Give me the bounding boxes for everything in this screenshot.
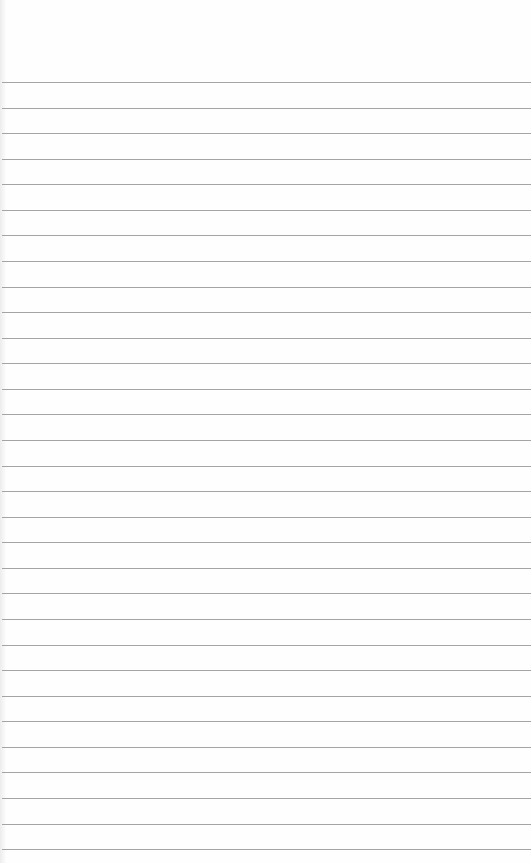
rule-line bbox=[2, 568, 531, 569]
rule-line bbox=[2, 235, 531, 236]
rule-line bbox=[2, 593, 531, 594]
rule-line bbox=[2, 824, 531, 825]
rule-line bbox=[2, 312, 531, 313]
rule-line bbox=[2, 542, 531, 543]
rule-line bbox=[2, 108, 531, 109]
rule-line bbox=[2, 261, 531, 262]
rule-line bbox=[2, 491, 531, 492]
rule-line bbox=[2, 670, 531, 671]
lined-paper bbox=[0, 0, 531, 863]
rule-line bbox=[2, 414, 531, 415]
rule-line bbox=[2, 338, 531, 339]
rule-line bbox=[2, 389, 531, 390]
rule-line bbox=[2, 440, 531, 441]
rule-line bbox=[2, 466, 531, 467]
rule-line bbox=[2, 772, 531, 773]
rule-line bbox=[2, 82, 531, 83]
rule-line bbox=[2, 619, 531, 620]
rule-line bbox=[2, 287, 531, 288]
rule-line bbox=[2, 849, 531, 850]
paper-edge-shadow bbox=[0, 0, 6, 863]
rule-line bbox=[2, 645, 531, 646]
rule-line bbox=[2, 798, 531, 799]
rule-line bbox=[2, 133, 531, 134]
rule-line bbox=[2, 184, 531, 185]
rule-line bbox=[2, 721, 531, 722]
rule-line bbox=[2, 517, 531, 518]
rule-line bbox=[2, 159, 531, 160]
rule-line bbox=[2, 696, 531, 697]
rule-line bbox=[2, 363, 531, 364]
rule-line bbox=[2, 747, 531, 748]
rule-line bbox=[2, 210, 531, 211]
